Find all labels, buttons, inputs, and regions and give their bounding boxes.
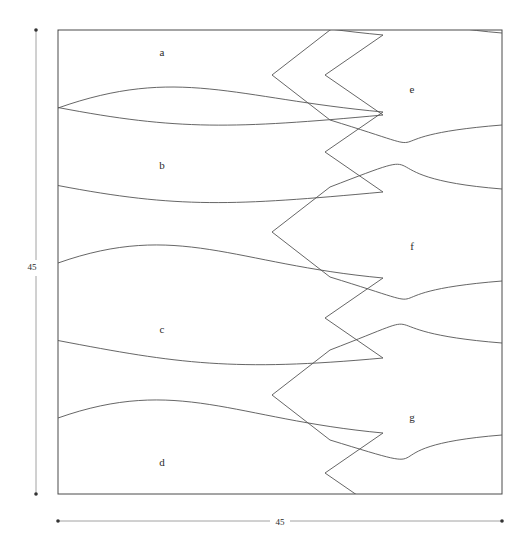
tile-label-d: d xyxy=(159,456,165,468)
vertical-dimension: 45 xyxy=(28,28,42,496)
tile-label-g: g xyxy=(409,411,415,423)
vertical-dimension-label: 45 xyxy=(28,262,38,272)
horizontal-dimension-endpoint-left xyxy=(56,519,60,523)
tile-label-a: a xyxy=(160,46,165,58)
tile-label-f: f xyxy=(410,240,414,252)
horizontal-dimension: 45 xyxy=(56,514,504,528)
horizontal-dimension-endpoint-right xyxy=(500,519,504,523)
bounding-square xyxy=(58,30,502,494)
vertical-dimension-endpoint-top xyxy=(34,28,38,32)
vertical-dimension-endpoint-bottom xyxy=(34,492,38,496)
tile-label-c: c xyxy=(160,323,165,335)
figure-canvas: abcdefg 45 45 xyxy=(0,0,530,554)
tessellation-figure: abcdefg 45 45 xyxy=(0,0,530,554)
tile-label-b: b xyxy=(159,159,165,171)
tile-label-e: e xyxy=(410,83,415,95)
horizontal-dimension-label: 45 xyxy=(276,517,286,527)
